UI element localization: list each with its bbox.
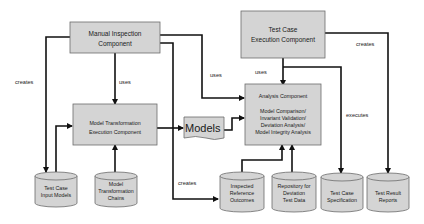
store-reference-line-1: Inspected [231, 183, 254, 189]
manual-inspection-line-1: Manual Inspection [89, 30, 142, 38]
model-transformation-line-2: Execution Component [89, 129, 142, 135]
store-chains-line-3: Chains [108, 195, 125, 201]
model-transformation-line-1: Model Transformation [89, 120, 140, 126]
analysis-line-4: Model Integrity Analysis [255, 129, 311, 135]
store-spec-line-1: Test Case [330, 190, 354, 196]
edge-label-creates-reports: creates [356, 41, 375, 47]
diagram-canvas: creates uses uses uses creates executes … [0, 0, 424, 224]
store-test-case-input-models: Test Case Input Models [35, 172, 77, 207]
store-reports-line-2: Reports [379, 197, 398, 203]
store-input-line-2: Input Models [41, 192, 72, 198]
analysis-line-3: Deviation Analysis/ [261, 122, 306, 128]
model-transformation-component: Model Transformation Execution Component [73, 104, 157, 145]
store-spec-line-2: Specification [327, 197, 357, 203]
test-case-execution-line-2: Execution Component [251, 36, 315, 44]
store-chains-line-1: Model [109, 181, 123, 187]
edge-input-to-transformation [56, 126, 72, 176]
edge-label-uses-transformation: uses [119, 79, 131, 85]
edge-reference-to-analysis [242, 145, 282, 176]
store-test-result-reports: Test Result Reports [367, 173, 409, 212]
test-case-execution-component: Test Case Execution Component [241, 11, 325, 58]
store-inspected-reference-outcomes: Inspected Reference Outcomes [220, 172, 264, 212]
store-test-case-specification: Test Case Specification [321, 173, 363, 212]
store-repository-line-3: Test Data [283, 197, 305, 203]
manual-inspection-line-2: Component [98, 40, 132, 48]
store-chains-line-2: Transformation [98, 188, 133, 194]
store-reports-line-1: Test Result [375, 190, 402, 196]
models-document: Models [184, 117, 224, 140]
store-model-transformation-chains: Model Transformation Chains [95, 172, 137, 207]
edge-label-executes: executes [346, 112, 369, 118]
analysis-title: Analysis Component [259, 93, 308, 99]
edge-label-creates-input: creates [15, 79, 34, 85]
analysis-line-1: Model Comparison/ [260, 108, 306, 114]
store-repository-line-1: Repository for [278, 183, 311, 189]
store-repository-deviation-test-data: Repository for Deviation Test Data [272, 172, 316, 212]
store-reference-line-2: Reference [230, 190, 254, 196]
analysis-component: Analysis Component Model Comparison/ Inv… [245, 84, 321, 145]
store-input-line-1: Test Case [44, 185, 68, 191]
edge-manual-creates-input [46, 37, 70, 172]
test-case-execution-line-1: Test Case [269, 26, 298, 33]
models-label: Models [185, 122, 221, 134]
analysis-line-2: Invariant Validation/ [260, 115, 307, 121]
edge-models-to-analysis [224, 118, 244, 130]
manual-inspection-component: Manual Inspection Component [70, 22, 160, 53]
edge-label-creates-reference: creates [178, 180, 197, 186]
edge-label-execution-uses: uses [255, 69, 267, 75]
store-reference-line-3: Outcomes [230, 197, 254, 203]
store-repository-line-2: Deviation [283, 190, 305, 196]
edge-execution-creates-reports [325, 33, 388, 173]
edge-label-uses-analysis: uses [210, 72, 222, 78]
